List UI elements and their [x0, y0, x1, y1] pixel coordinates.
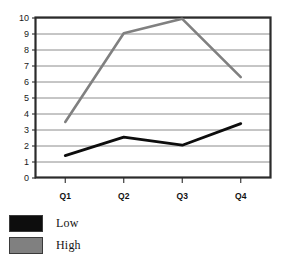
y-tick-label: 2 [13, 142, 29, 151]
y-tick-label: 8 [13, 46, 29, 55]
x-tick-label: Q1 [50, 191, 80, 201]
y-tick-label: 3 [13, 126, 29, 135]
line-chart-figure: 10 9 8 7 6 5 4 3 2 1 0 Q1 Q2 Q3 Q4 [0, 0, 291, 261]
x-axis-ticks [65, 178, 241, 183]
y-tick-label: 0 [13, 174, 29, 183]
y-tick-label: 10 [13, 14, 29, 23]
y-tick-label: 1 [13, 158, 29, 167]
y-tick-label: 4 [13, 110, 29, 119]
legend-item-high: High [9, 234, 159, 256]
legend-label-low: Low [56, 216, 79, 231]
legend-swatch-high [9, 237, 43, 254]
x-tick-label: Q3 [167, 191, 197, 201]
chart-legend: Low High [9, 212, 159, 256]
legend-item-low: Low [9, 212, 159, 234]
plot-area: 10 9 8 7 6 5 4 3 2 1 0 Q1 Q2 Q3 Q4 [0, 0, 291, 205]
legend-swatch-low [9, 215, 43, 232]
legend-label-high: High [56, 238, 81, 253]
y-tick-label: 7 [13, 62, 29, 71]
x-tick-label: Q2 [109, 191, 139, 201]
x-tick-label: Q4 [226, 191, 256, 201]
y-tick-label: 9 [13, 30, 29, 39]
y-tick-label: 6 [13, 78, 29, 87]
y-tick-label: 5 [13, 94, 29, 103]
series-line-low [65, 124, 241, 156]
plot-canvas [0, 0, 291, 205]
